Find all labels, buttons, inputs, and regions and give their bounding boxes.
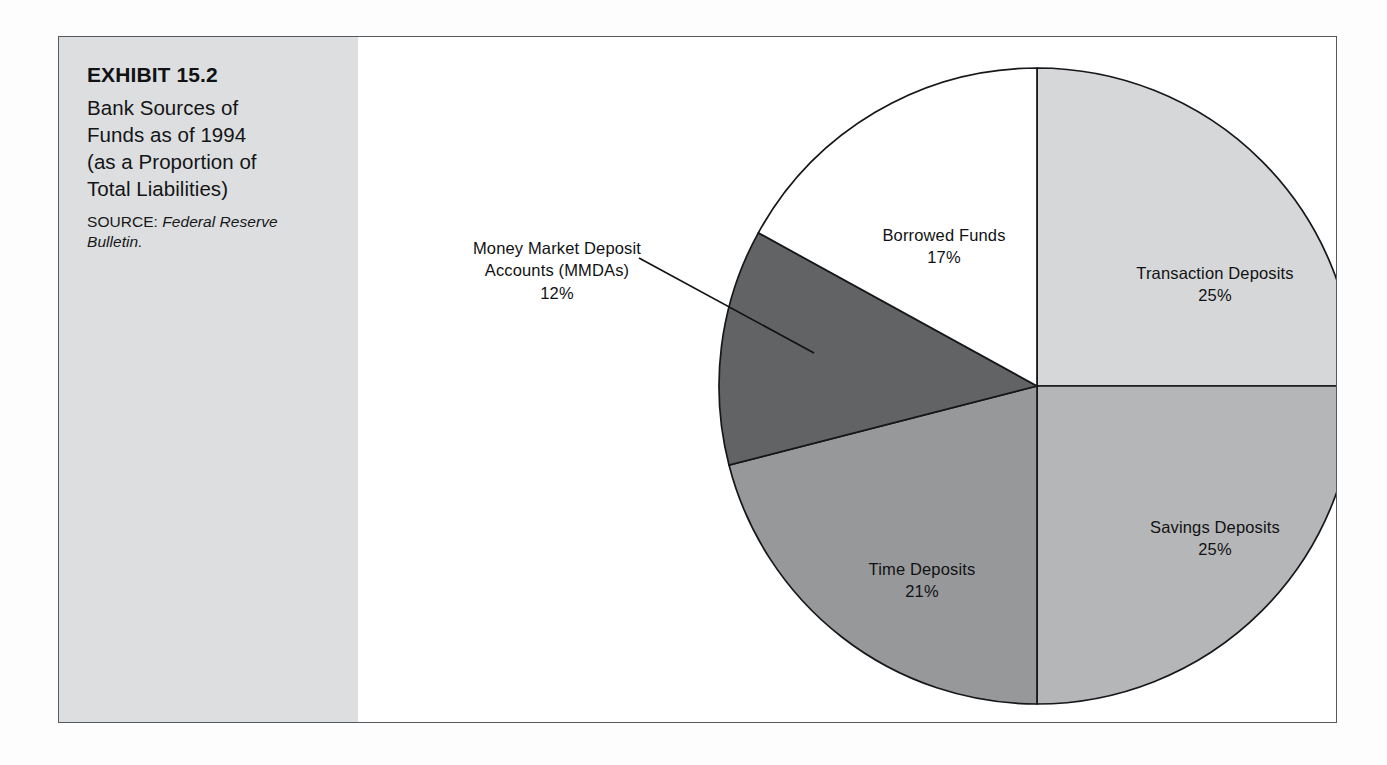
slice-label-time-deposits-text: Time Deposits — [869, 560, 976, 578]
figure-frame: EXHIBIT 15.2 Bank Sources of Funds as of… — [58, 36, 1337, 723]
slice-value-borrowed-funds: 17% — [844, 247, 1044, 269]
figure-title-line-4: Total Liabilities) — [87, 175, 337, 202]
slice-label-transaction-deposits-text: Transaction Deposits — [1136, 264, 1293, 282]
slice-value-savings-deposits: 25% — [1100, 539, 1330, 561]
figure-title: Bank Sources of Funds as of 1994 (as a P… — [87, 94, 337, 202]
pie-slices — [719, 68, 1336, 704]
pie-chart-svg — [358, 37, 1336, 721]
pie-chart-area: Transaction Deposits 25% Savings Deposit… — [358, 37, 1336, 722]
slice-value-time-deposits: 21% — [822, 581, 1022, 603]
slice-label-mmda: Money Market Deposit Accounts (MMDAs) 12… — [436, 237, 678, 304]
pie-slice-transaction-deposits — [1037, 68, 1336, 386]
figure-title-line-2: Funds as of 1994 — [87, 121, 337, 148]
slice-label-time-deposits: Time Deposits 21% — [822, 559, 1022, 603]
slice-value-transaction-deposits: 25% — [1100, 285, 1330, 307]
slice-label-transaction-deposits: Transaction Deposits 25% — [1100, 263, 1330, 307]
figure-title-line-3: (as a Proportion of — [87, 148, 337, 175]
slice-label-borrowed-funds: Borrowed Funds 17% — [844, 225, 1044, 269]
source-label: SOURCE: — [87, 213, 158, 230]
slice-label-borrowed-funds-text: Borrowed Funds — [882, 226, 1005, 244]
slice-label-mmda-line-1: Money Market Deposit — [473, 239, 641, 257]
slice-label-savings-deposits: Savings Deposits 25% — [1100, 517, 1330, 561]
slice-label-mmda-line-2: Accounts (MMDAs) — [436, 259, 678, 281]
figure-title-line-1: Bank Sources of — [87, 94, 337, 121]
figure-source: SOURCE: Federal Reserve Bulletin. — [87, 212, 337, 252]
exhibit-number: EXHIBIT 15.2 — [87, 63, 337, 87]
caption-block: EXHIBIT 15.2 Bank Sources of Funds as of… — [87, 63, 337, 253]
slice-value-mmda: 12% — [436, 282, 678, 304]
caption-panel: EXHIBIT 15.2 Bank Sources of Funds as of… — [59, 37, 358, 722]
slice-label-savings-deposits-text: Savings Deposits — [1150, 518, 1280, 536]
exhibit-figure: EXHIBIT 15.2 Bank Sources of Funds as of… — [0, 0, 1387, 765]
